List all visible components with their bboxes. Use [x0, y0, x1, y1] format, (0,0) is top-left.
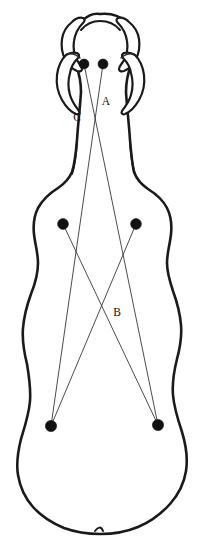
measurement-label-b: B [113, 306, 121, 318]
left-ear-icon [57, 53, 80, 115]
right-poll-landmark [98, 59, 108, 69]
body-outline-path [17, 14, 187, 534]
left-shoulder-landmark [58, 219, 69, 230]
measurement-label-a: A [102, 95, 111, 107]
left-hip-landmark [45, 420, 56, 431]
right-hip-landmark [152, 419, 163, 430]
anatomy-diagram: ABC [0, 0, 212, 549]
left-poll-landmark [79, 59, 89, 69]
measurement-label-c: C [73, 111, 81, 123]
figure-root: ABC [0, 0, 212, 549]
right-shoulder-landmark [131, 219, 142, 230]
